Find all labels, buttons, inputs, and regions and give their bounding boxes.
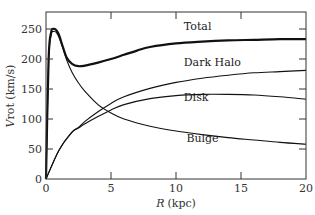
- x-tick-label: 15: [234, 182, 248, 195]
- series-label-disk: Disk: [184, 91, 209, 104]
- rotation-curve-chart: 05101520050100150200250 TotalDark HaloDi…: [0, 0, 315, 215]
- x-axis-label: R(kpc): [155, 197, 196, 210]
- y-tick-label: 150: [21, 83, 42, 96]
- y-tick-label: 200: [21, 53, 42, 66]
- y-tick-label: 250: [21, 23, 42, 36]
- series-line-dark-halo: [46, 70, 306, 179]
- y-axis-label: Vrot (km/s): [4, 65, 17, 128]
- series-line-disk: [46, 94, 306, 179]
- y-tick-label: 0: [35, 173, 42, 186]
- y-tick-label: 50: [28, 143, 42, 156]
- x-tick-label: 0: [43, 182, 50, 195]
- series-labels: TotalDark HaloDiskBulge: [184, 20, 241, 145]
- x-tick-label: 5: [108, 182, 115, 195]
- series-label-total: Total: [184, 20, 212, 33]
- series-line-total: [46, 29, 306, 179]
- series-label-bulge: Bulge: [186, 132, 218, 145]
- x-tick-label: 10: [169, 182, 183, 195]
- series-line-bulge: [46, 31, 306, 179]
- series-label-dark-halo: Dark Halo: [184, 56, 241, 69]
- plot-lines: [46, 29, 306, 179]
- y-tick-label: 100: [21, 113, 42, 126]
- x-tick-label: 20: [299, 182, 313, 195]
